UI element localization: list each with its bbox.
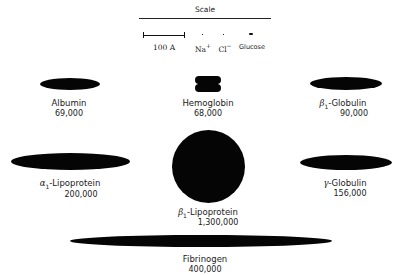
beta1-lipoprotein-mw: 1,300,000 xyxy=(198,218,239,227)
beta1-globulin-label: β1-Globulin xyxy=(320,98,367,110)
na-ion-label: Na+ xyxy=(195,42,211,54)
beta1-lipoprotein-shape xyxy=(172,130,245,203)
gamma-globulin-mw: 156,000 xyxy=(333,189,366,198)
alpha1-lipoprotein-label: α1-Lipoprotein xyxy=(40,178,101,190)
hemoglobin-label: Hemoglobin xyxy=(182,98,233,108)
beta1-globulin-shape xyxy=(310,77,382,90)
hemoglobin-mw: 68,000 xyxy=(194,109,222,118)
alpha1-lipoprotein-shape xyxy=(11,153,130,170)
cl-ion-dot xyxy=(223,34,224,35)
glucose-label: Glucose xyxy=(239,43,265,51)
beta1-globulin-mw: 90,000 xyxy=(340,109,368,118)
scale-title: Scale xyxy=(195,5,215,14)
fibrinogen-shape xyxy=(70,235,332,247)
cl-ion-label: Cl− xyxy=(218,42,231,54)
scale-divider xyxy=(139,18,271,19)
fibrinogen-label: Fibrinogen xyxy=(183,254,227,264)
fibrinogen-mw: 400,000 xyxy=(188,265,221,274)
na-ion-dot xyxy=(202,34,203,35)
scale-bar-label: 100 A xyxy=(153,43,175,52)
albumin-mw: 69,000 xyxy=(55,109,83,118)
glucose-dot xyxy=(249,33,253,35)
gamma-globulin-shape xyxy=(300,155,392,170)
alpha1-lipoprotein-mw: 200,000 xyxy=(64,190,97,199)
beta1-lipoprotein-label: β1-Lipoprotein xyxy=(178,207,238,219)
albumin-label: Albumin xyxy=(52,98,87,108)
albumin-shape xyxy=(40,78,100,90)
gamma-globulin-label: γ-Globulin xyxy=(323,178,366,188)
